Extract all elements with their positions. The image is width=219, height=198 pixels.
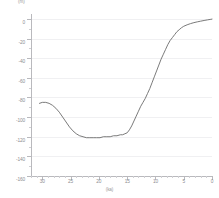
x-tick-label: 30	[40, 179, 45, 184]
y-minor-tick	[29, 166, 31, 167]
x-minor-tick	[76, 176, 77, 178]
x-minor-tick	[133, 176, 134, 178]
y-tick	[27, 117, 31, 118]
x-tick-label: 25	[68, 179, 73, 184]
y-minor-tick	[29, 107, 31, 108]
y-tick	[27, 19, 31, 20]
x-minor-tick	[54, 176, 55, 178]
x-minor-tick	[88, 176, 89, 178]
x-minor-tick	[189, 176, 190, 178]
x-minor-tick	[150, 176, 151, 178]
y-tick	[27, 156, 31, 157]
y-tick	[27, 97, 31, 98]
y-tick-label: -100	[16, 118, 25, 123]
y-minor-tick	[29, 68, 31, 69]
x-minor-tick	[206, 176, 207, 178]
y-tick-label-wrap: -160	[0, 167, 25, 185]
x-minor-tick	[144, 176, 145, 178]
x-minor-tick	[37, 176, 38, 178]
y-tick	[27, 39, 31, 40]
y-tick-label-wrap: -60	[0, 69, 25, 87]
x-axis-title: (ka)	[0, 187, 219, 192]
x-minor-tick	[122, 176, 123, 178]
y-tick-label: -120	[16, 138, 25, 143]
x-minor-tick	[172, 176, 173, 178]
x-tick-label: 0	[211, 179, 214, 184]
x-minor-tick	[82, 176, 83, 178]
y-tick-label-wrap: -40	[0, 49, 25, 67]
sea-level-chart: (m) 0-20-40-60-80-100-120-140-160 302520…	[0, 0, 219, 198]
y-tick-label-wrap: -100	[0, 108, 25, 126]
x-tick-label: 15	[125, 179, 130, 184]
y-axis-unit-label: (m)	[18, 0, 25, 4]
y-tick-label: -60	[19, 79, 25, 84]
y-tick-label-wrap: -80	[0, 88, 25, 106]
sea-level-curve	[31, 14, 212, 176]
y-tick	[27, 58, 31, 59]
x-minor-tick	[31, 176, 32, 178]
x-minor-tick	[59, 176, 60, 178]
y-tick	[27, 78, 31, 79]
x-minor-tick	[65, 176, 66, 178]
x-minor-tick	[167, 176, 168, 178]
y-tick-label: 0	[22, 20, 25, 25]
y-tick-label: -80	[19, 98, 25, 103]
x-minor-tick	[161, 176, 162, 178]
x-tick-label: 20	[96, 179, 101, 184]
y-minor-tick	[29, 88, 31, 89]
x-minor-tick	[110, 176, 111, 178]
x-minor-tick	[48, 176, 49, 178]
y-tick-label-wrap: -20	[0, 30, 25, 48]
y-tick-label-wrap: 0	[0, 10, 25, 28]
y-tick-label: -40	[19, 59, 25, 64]
plot-area	[31, 14, 212, 176]
x-minor-tick	[138, 176, 139, 178]
y-tick-label-wrap: -140	[0, 147, 25, 165]
y-tick-label-wrap: -120	[0, 128, 25, 146]
y-tick-label: -160	[16, 177, 25, 182]
y-minor-tick	[29, 147, 31, 148]
y-tick-label: -140	[16, 157, 25, 162]
x-tick-label: 5	[182, 179, 185, 184]
y-axis-line	[31, 14, 32, 176]
x-minor-tick	[201, 176, 202, 178]
x-minor-tick	[105, 176, 106, 178]
y-minor-tick	[29, 127, 31, 128]
x-minor-tick	[93, 176, 94, 178]
y-tick	[27, 137, 31, 138]
y-minor-tick	[29, 48, 31, 49]
x-tick-label: 10	[153, 179, 158, 184]
x-minor-tick	[195, 176, 196, 178]
x-minor-tick	[116, 176, 117, 178]
y-tick-label: -20	[19, 40, 25, 45]
y-minor-tick	[29, 29, 31, 30]
x-minor-tick	[178, 176, 179, 178]
